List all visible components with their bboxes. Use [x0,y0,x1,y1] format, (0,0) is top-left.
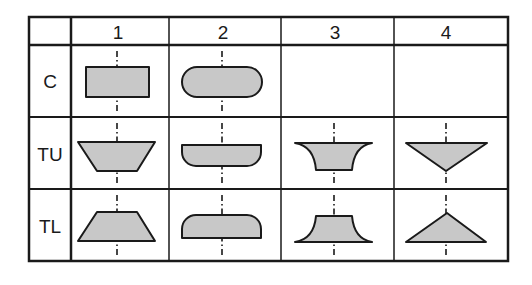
shape-c2-stadium [182,67,262,97]
shape-tu3-concave-inverted-trapezoid [295,143,372,170]
row-header-tl: TL [39,216,61,237]
column-header-4: 4 [441,22,452,43]
shape-tu2-half-stadium-bottom [182,145,261,166]
shape-c1-rectangle [86,67,149,97]
row-header-c: C [43,71,57,92]
column-header-3: 3 [330,22,341,43]
row-header-tu: TU [37,144,62,165]
shape-tl3-concave-trapezoid [295,216,372,242]
column-header-1: 1 [113,22,124,43]
shape-tl1-trapezoid [78,212,155,241]
shape-tl4-triangle [406,213,486,242]
shape-tl2-half-stadium-top [182,215,261,238]
shape-tu4-inverted-triangle [406,143,487,171]
column-header-2: 2 [218,22,229,43]
shape-tu1-inverted-trapezoid [78,142,155,171]
cross-section-shape-table: 1 2 3 4 C TU TL [0,0,532,285]
